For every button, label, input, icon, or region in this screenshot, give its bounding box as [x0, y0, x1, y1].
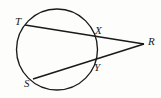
point-label-x: X — [95, 25, 102, 36]
point-label-y: Y — [94, 62, 100, 73]
point-label-s: S — [24, 78, 30, 89]
point-label-t: T — [15, 16, 21, 27]
geometry-figure: T X R Y S — [0, 0, 161, 98]
point-label-r: R — [148, 36, 155, 47]
secant-line-s-r — [33, 44, 144, 79]
secant-line-t-r — [25, 25, 144, 44]
